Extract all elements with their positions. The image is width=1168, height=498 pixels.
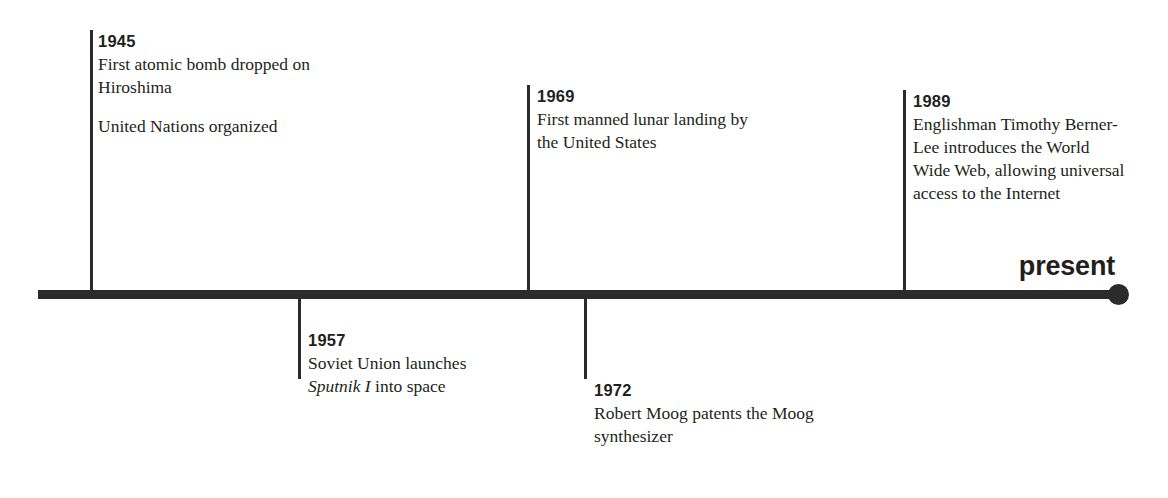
timeline-axis-bar xyxy=(38,290,1120,299)
event-year-1945: 1945 xyxy=(98,32,334,51)
event-text-1957-italic: Sputnik I xyxy=(308,376,371,396)
event-year-1969: 1969 xyxy=(537,87,773,106)
event-description-1945-a: First atomic bomb dropped on Hiroshima xyxy=(98,53,334,99)
event-description-1989: Englishman Timothy Berner-Lee introduces… xyxy=(913,113,1125,205)
tick-1945 xyxy=(90,30,93,292)
event-description-1969: First manned lunar landing by the United… xyxy=(537,108,773,154)
event-year-1957: 1957 xyxy=(308,331,508,350)
timeline-endpoint-dot xyxy=(1108,284,1129,305)
tick-1972 xyxy=(584,299,587,379)
event-year-1989: 1989 xyxy=(913,92,1125,111)
event-1945: 1945 First atomic bomb dropped on Hirosh… xyxy=(98,32,334,138)
event-1972: 1972 Robert Moog patents the Moog synthe… xyxy=(594,381,824,448)
event-description-1957: Soviet Union launches Sputnik I into spa… xyxy=(308,352,508,398)
event-1957: 1957 Soviet Union launches Sputnik I int… xyxy=(308,331,508,398)
event-1989: 1989 Englishman Timothy Berner-Lee intro… xyxy=(913,92,1125,205)
timeline-diagram: 1945 First atomic bomb dropped on Hirosh… xyxy=(0,0,1168,498)
event-description-1945-b: United Nations organized xyxy=(98,115,334,138)
event-description-1972: Robert Moog patents the Moog synthesizer xyxy=(594,402,824,448)
tick-1989 xyxy=(903,90,906,292)
event-1969: 1969 First manned lunar landing by the U… xyxy=(537,87,773,154)
event-year-1972: 1972 xyxy=(594,381,824,400)
event-text-1957-part1: Soviet Union launches xyxy=(308,353,466,373)
present-label: present xyxy=(1019,251,1115,282)
tick-1957 xyxy=(298,299,301,379)
tick-1969 xyxy=(527,85,530,292)
event-text-1957-part2: into space xyxy=(371,376,446,396)
